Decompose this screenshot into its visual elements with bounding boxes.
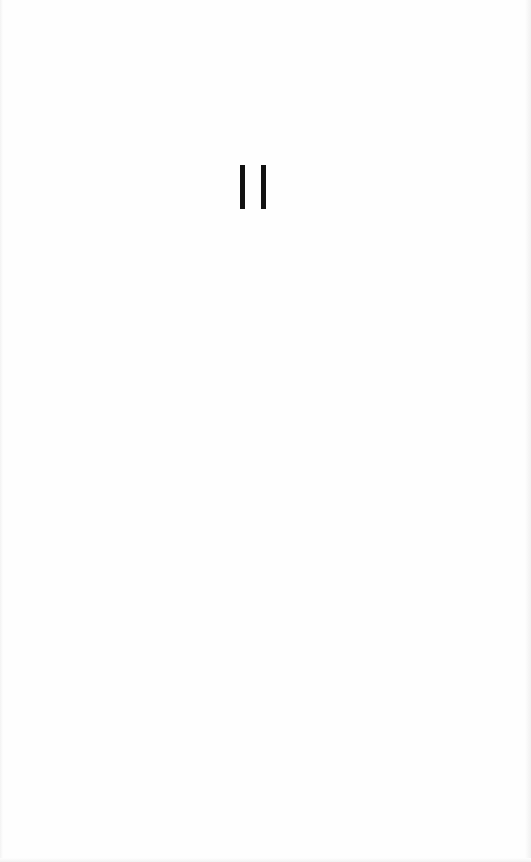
screen: Paused: [0, 0, 531, 862]
screen-edge-bottom: [0, 858, 531, 862]
screen-edge-left: [0, 0, 3, 862]
pause-icon-left-bar: [240, 165, 245, 209]
pause-icon-right-bar: [261, 165, 266, 209]
screen-edge-right: [525, 0, 531, 862]
pause-button[interactable]: Paused: [240, 165, 267, 209]
